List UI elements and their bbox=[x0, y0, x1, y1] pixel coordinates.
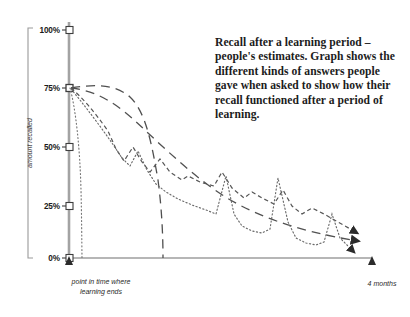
chart-figure: amount recalled 100% 75% 50% 25% bbox=[0, 0, 410, 317]
chart-caption: Recall after a learning period – people'… bbox=[215, 36, 405, 122]
x-axis-right-label: 4 months bbox=[368, 280, 397, 287]
x-axis-end-marker bbox=[368, 256, 376, 265]
y-tick-label-50: 50% bbox=[44, 143, 61, 152]
y-tick-label-75: 75% bbox=[44, 84, 61, 93]
y-tick-label-25: 25% bbox=[44, 202, 61, 211]
y-tick-label-0: 0% bbox=[48, 254, 60, 263]
y-tick-label-100: 100% bbox=[39, 26, 60, 35]
x-axis-left-label-line2: learning ends bbox=[80, 288, 123, 296]
y-axis-title: amount recalled bbox=[26, 117, 33, 168]
x-axis-left-label-line1: point in time where bbox=[71, 278, 131, 286]
curve-immediate-total-loss bbox=[70, 88, 82, 258]
